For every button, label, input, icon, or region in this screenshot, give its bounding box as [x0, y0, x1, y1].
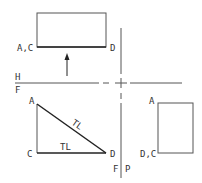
label-c-front: C [27, 149, 32, 159]
label-d-front: D [110, 149, 115, 159]
top-view-rect [37, 13, 106, 47]
view-arrow-head-icon [65, 53, 70, 60]
label-p: P [125, 164, 131, 174]
label-f-horizontal: F [15, 85, 20, 95]
label-dc-side: D,C [140, 149, 156, 159]
label-d-top: D [110, 43, 115, 53]
diagram-svg: A,C D H F F P A C D TL TL A D,C [0, 0, 202, 183]
front-edge-ad [37, 104, 106, 153]
label-f-vertical: F [113, 164, 118, 174]
label-h: H [15, 72, 20, 82]
label-a-side: A [149, 96, 155, 106]
side-view-rect [158, 103, 193, 153]
label-tl-base: TL [60, 142, 71, 152]
projection-diagram: A,C D H F F P A C D TL TL A D,C [0, 0, 202, 183]
label-a-front: A [29, 96, 35, 106]
label-ac-top: A,C [17, 43, 33, 53]
